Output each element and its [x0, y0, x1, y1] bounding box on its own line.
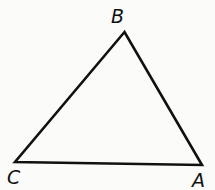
- triangle-abc: [15, 32, 202, 165]
- vertex-label-a: A: [190, 169, 205, 190]
- vertex-label-c: C: [7, 166, 21, 188]
- vertex-label-b: B: [111, 5, 124, 27]
- triangle-svg: B C A: [0, 0, 215, 190]
- triangle-diagram: B C A: [0, 0, 215, 190]
